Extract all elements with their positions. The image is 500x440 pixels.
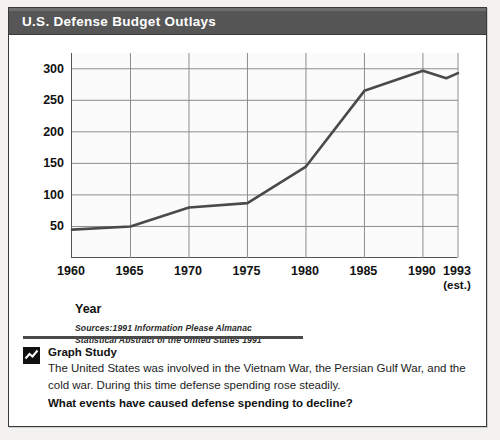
x-tick-1975: 1975: [233, 264, 261, 278]
line-chart-icon-glyph: [23, 347, 40, 364]
y-tick-300: 300: [43, 62, 64, 76]
x-tick-1965: 1965: [116, 264, 144, 278]
caption-body: The United States was involved in the Vi…: [48, 360, 472, 395]
figure-title-bar: U.S. Defense Budget Outlays: [9, 8, 486, 35]
y-tick-200: 200: [43, 125, 64, 139]
title-bar-bevel: [9, 8, 486, 11]
caption-question: What events have caused defense spending…: [48, 395, 472, 412]
y-tick-150: 150: [43, 156, 64, 170]
y-tick-50: 50: [50, 219, 64, 233]
plot-region: [71, 53, 457, 258]
line-chart-svg: [72, 53, 458, 258]
caption-block: Graph Study The United States was involv…: [9, 336, 486, 412]
x-tick-1960: 1960: [57, 264, 85, 278]
y-tick-250: 250: [43, 93, 64, 107]
x-tick-1970: 1970: [174, 264, 202, 278]
figure-title: U.S. Defense Budget Outlays: [22, 14, 216, 29]
x-tick-1980: 1980: [291, 264, 319, 278]
page-background: U.S. Defense Budget Outlays Dollars (in …: [0, 0, 500, 440]
caption-divider: [23, 336, 303, 339]
caption-heading: Graph Study: [48, 345, 472, 359]
y-tick-100: 100: [43, 188, 64, 202]
x-tick-1985: 1985: [350, 264, 378, 278]
x-tick-1993: 1993(est.): [443, 264, 471, 291]
plot-wrapper: Dollars (in billions) 50100150200250300 …: [71, 53, 457, 258]
figure-frame: U.S. Defense Budget Outlays Dollars (in …: [8, 7, 487, 427]
chart-area: Dollars (in billions) 50100150200250300 …: [9, 35, 486, 331]
x-tick-1990: 1990: [408, 264, 436, 278]
x-tick-sublabel: (est.): [443, 279, 471, 291]
sources-line-1: Sources:1991 Information Please Almanac: [75, 323, 262, 335]
x-axis-title: Year: [75, 302, 101, 316]
line-chart-icon: [23, 347, 40, 364]
